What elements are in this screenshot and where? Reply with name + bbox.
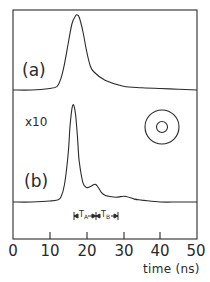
panel-b-label: (b) [24, 171, 48, 191]
ta-label: TA [79, 210, 88, 220]
x-tick-label-50: 50 [186, 242, 205, 260]
chart-figure [0, 0, 210, 282]
x-tick-label-20: 20 [77, 242, 96, 260]
tb-sub: B [106, 213, 110, 220]
x-tick-label-0: 0 [8, 242, 18, 260]
x-tick-label-30: 30 [114, 242, 133, 260]
panel-a-label: (a) [22, 60, 46, 80]
tb-label: TB [101, 210, 110, 220]
scale-factor-label: x10 [25, 115, 47, 129]
concentric-circles-icon [145, 110, 179, 144]
x-tick-label-40: 40 [150, 242, 169, 260]
x-axis-ticks [50, 232, 160, 239]
x-axis-label: time (ns) [143, 262, 200, 276]
ta-sub: A [84, 213, 88, 220]
x-tick-label-10: 10 [40, 242, 59, 260]
